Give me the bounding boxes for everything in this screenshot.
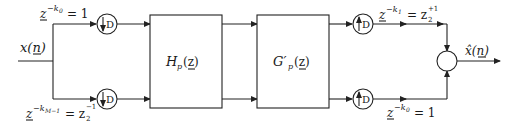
upsampler-bottom: D — [353, 89, 373, 109]
svg-text:+1: +1 — [428, 5, 438, 13]
svg-text:p: p — [177, 62, 182, 71]
svg-text:D: D — [362, 94, 370, 105]
svg-text:0: 0 — [59, 7, 63, 14]
filterbank-diagram: x(n) z −k 0 = 1 z −k M−1 = z 2 −1 D D H — [0, 0, 515, 123]
svg-text:= 1: = 1 — [67, 7, 89, 21]
svg-text:z: z — [39, 7, 47, 21]
analysis-polyphase-block: H p (z) — [150, 15, 222, 108]
svg-text:−1: −1 — [86, 103, 96, 111]
svg-text:z: z — [386, 106, 394, 120]
svg-text:2: 2 — [428, 16, 432, 24]
svg-text:D: D — [106, 19, 114, 30]
svg-text:−k: −k — [47, 4, 59, 13]
svg-text:−k: −k — [33, 104, 45, 113]
delay-label-bottom-left: z −k M−1 = z 2 −1 — [25, 103, 96, 123]
svg-text:p: p — [288, 62, 293, 71]
downsampler-top: D — [97, 14, 117, 34]
svg-text:−k: −k — [386, 5, 398, 14]
delay-label-top-left: z −k 0 = 1 — [39, 4, 89, 21]
svg-text:M−1: M−1 — [44, 107, 60, 114]
svg-text:1: 1 — [398, 8, 402, 15]
upsampler-top: D — [353, 14, 373, 34]
svg-text:= 1: = 1 — [414, 106, 436, 120]
delay-label-top-right: z −k 1 = z 2 +1 — [378, 5, 438, 24]
output-label: x̂(n) — [465, 44, 489, 58]
svg-text:= z: = z — [407, 8, 427, 22]
svg-text:G′: G′ — [273, 54, 286, 69]
svg-text:2: 2 — [86, 115, 90, 123]
synthesis-polyphase-block: G′ p (z) — [257, 15, 329, 108]
svg-text:−k: −k — [394, 103, 406, 112]
input-signal: x(n) — [18, 40, 53, 61]
downsampler-bottom: D — [97, 89, 117, 109]
summing-junction — [437, 51, 457, 71]
delay-label-bottom-right: z −k 0 = 1 — [386, 103, 436, 120]
svg-text:z: z — [25, 107, 33, 121]
svg-text:D: D — [362, 19, 370, 30]
input-label: x(n) — [20, 40, 46, 55]
svg-text:0: 0 — [406, 106, 410, 113]
output-signal: x̂(n) — [457, 44, 500, 61]
svg-text:(z): (z) — [294, 55, 310, 69]
svg-text:z: z — [378, 8, 386, 22]
svg-text:D: D — [106, 94, 114, 105]
svg-text:(z): (z) — [183, 55, 199, 69]
svg-text:= z: = z — [65, 107, 85, 121]
